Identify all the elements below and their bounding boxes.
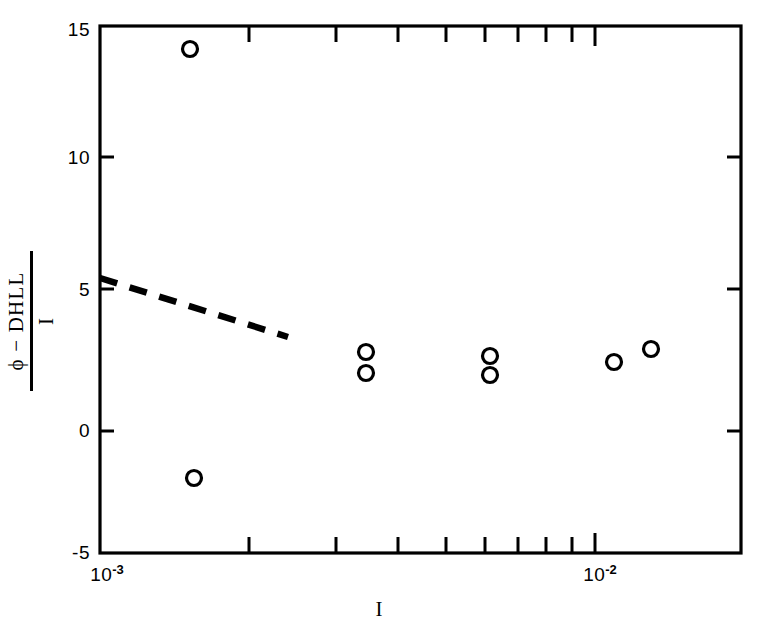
y-axis-title-denominator: I: [33, 317, 57, 325]
scatter-plot-svg: [0, 0, 759, 629]
data-point: [359, 345, 374, 360]
data-point: [483, 368, 498, 383]
data-point: [483, 349, 498, 364]
data-point: [183, 42, 198, 57]
x-axis-title: I: [0, 597, 759, 622]
x-tick-mantissa: 10: [583, 564, 605, 585]
x-tick-mantissa: 10: [90, 564, 112, 585]
x-axis-ticks-bottom: [249, 533, 595, 553]
dashed-trend-line: [100, 278, 288, 337]
x-tick-exponent: -3: [112, 562, 124, 577]
data-point: [644, 342, 659, 357]
plot-frame: [100, 26, 741, 553]
x-tick-exponent: -2: [605, 562, 617, 577]
x-axis-ticks-top: [249, 26, 595, 46]
y-tick-label-0: 0: [48, 420, 90, 442]
data-points: [183, 42, 659, 486]
data-point: [359, 366, 374, 381]
x-tick-label-1e-3: 10-3: [90, 562, 124, 586]
y-axis-title-numerator: ϕ − DHLL: [5, 269, 29, 374]
y-tick-label-minus-5: -5: [40, 542, 90, 564]
data-point: [607, 355, 622, 370]
x-tick-label-1e-2: 10-2: [583, 562, 617, 586]
axes-border: [100, 26, 741, 553]
data-point: [187, 471, 202, 486]
figure-container: 15 10 5 0 -5 10-3 10-2 I ϕ − DHLL I: [0, 0, 759, 629]
y-axis-ticks-right: [727, 157, 741, 431]
y-axis-ticks: [100, 157, 114, 431]
y-tick-label-10: 10: [48, 147, 90, 169]
y-tick-label-15: 15: [48, 19, 90, 41]
y-axis-title: ϕ − DHLL I: [0, 251, 62, 391]
